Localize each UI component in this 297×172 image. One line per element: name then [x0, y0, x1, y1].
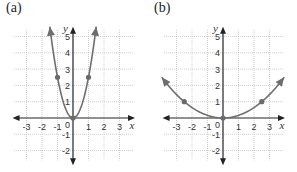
svg-text:1: 1 [86, 122, 91, 132]
axes [163, 27, 285, 166]
grid-lines [14, 30, 133, 160]
svg-text:1: 1 [236, 122, 241, 132]
svg-text:1: 1 [65, 97, 70, 107]
svg-text:-2: -2 [62, 146, 70, 156]
graph-panel-a: (a) -3-2-112354321-1-20xy [0, 0, 148, 172]
svg-text:3: 3 [215, 65, 220, 75]
grid-lines [164, 30, 283, 160]
axes [13, 27, 135, 166]
svg-text:x: x [129, 119, 135, 131]
y-axis-up-arrow-icon [70, 27, 76, 34]
svg-text:3: 3 [117, 122, 122, 132]
svg-text:2: 2 [215, 81, 220, 91]
svg-text:4: 4 [215, 48, 220, 58]
svg-text:-2: -2 [188, 122, 196, 132]
svg-text:-2: -2 [212, 146, 220, 156]
svg-text:3: 3 [267, 122, 272, 132]
svg-text:y: y [212, 22, 218, 34]
svg-text:2: 2 [65, 81, 70, 91]
svg-text:0: 0 [65, 120, 70, 130]
parabola-graph-b: -3-2-112354321-1-20xy [148, 0, 296, 172]
graph-panel-b: (b) -3-2-112354321-1-20xy [148, 0, 296, 172]
y-axis-down-arrow-icon [70, 158, 76, 165]
y-axis-down-arrow-icon [220, 158, 226, 165]
svg-text:3: 3 [65, 65, 70, 75]
x-axis-left-arrow-icon [13, 115, 20, 121]
svg-text:-1: -1 [53, 122, 61, 132]
svg-text:y: y [62, 22, 68, 34]
svg-text:-2: -2 [38, 122, 46, 132]
svg-text:0: 0 [215, 120, 220, 130]
svg-text:1: 1 [215, 97, 220, 107]
svg-text:-1: -1 [62, 130, 70, 140]
svg-text:-3: -3 [22, 122, 30, 132]
data-point [182, 99, 187, 104]
svg-text:4: 4 [65, 48, 70, 58]
data-point [86, 75, 91, 80]
svg-text:-1: -1 [203, 122, 211, 132]
svg-text:x: x [279, 119, 285, 131]
curve-arrow-icon [47, 27, 55, 36]
svg-text:2: 2 [101, 122, 106, 132]
tick-labels: -3-2-112354321-1-20xy [22, 22, 134, 156]
curve-arrow-icon [91, 27, 99, 36]
svg-text:-3: -3 [172, 122, 180, 132]
tick-labels: -3-2-112354321-1-20xy [172, 22, 284, 156]
data-point [220, 115, 225, 120]
svg-text:-1: -1 [212, 130, 220, 140]
y-axis-up-arrow-icon [220, 27, 226, 34]
data-point [70, 115, 75, 120]
svg-text:2: 2 [251, 122, 256, 132]
data-point [259, 99, 264, 104]
parabola-graph-a: -3-2-112354321-1-20xy [0, 0, 148, 172]
x-axis-left-arrow-icon [163, 115, 170, 121]
data-point [55, 75, 60, 80]
